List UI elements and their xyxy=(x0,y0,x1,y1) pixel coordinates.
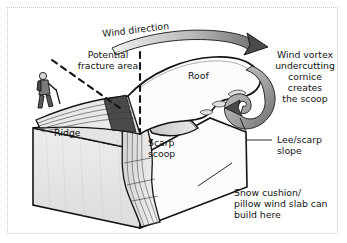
label-cushion-line3: build here xyxy=(234,209,281,220)
label-scarp-line1: Scarp xyxy=(148,137,175,148)
label-potential-fracture-line1: Potential xyxy=(88,49,129,60)
label-vortex-line1: Wind vortex xyxy=(277,49,334,60)
label-cushion-line2: pillow wind slab can xyxy=(234,198,328,209)
label-lee-line2: slope xyxy=(277,145,302,156)
label-roof: Roof xyxy=(188,70,209,81)
label-vortex-line4: creates xyxy=(288,82,323,93)
skier-figure xyxy=(37,72,60,108)
label-ridge: Ridge xyxy=(54,127,81,138)
label-lee-line1: Lee/scarp xyxy=(277,134,322,145)
label-scarp-line2: scoop xyxy=(148,148,175,159)
label-vortex-line5: the scoop xyxy=(282,93,328,104)
cornice-cross-section-diagram: Wind direction Potential fracture area R… xyxy=(0,0,347,243)
label-vortex-line2: undercutting xyxy=(275,60,335,71)
label-potential-fracture-line2: fracture area xyxy=(78,60,138,71)
label-cushion-line1: Snow cushion/ xyxy=(234,187,302,198)
label-vortex-line3: cornice xyxy=(288,71,322,82)
